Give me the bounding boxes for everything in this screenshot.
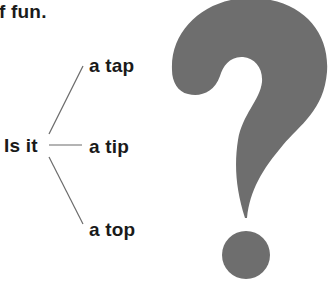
branch-label-tip: a tip <box>89 137 129 156</box>
tree-root-label: Is it <box>4 136 38 155</box>
connector-line-top <box>49 157 83 224</box>
branch-label-top: a top <box>89 220 135 239</box>
connector-line-tap <box>49 66 83 134</box>
top-text: f fun. <box>0 2 47 21</box>
tree-connectors <box>0 0 331 286</box>
branch-label-tap: a tap <box>89 56 134 75</box>
